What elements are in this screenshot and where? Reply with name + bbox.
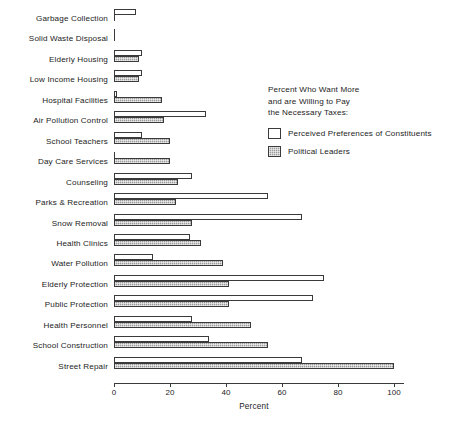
x-axis-tick [170,383,171,387]
bar-political-leaders [114,56,139,62]
bar-political-leaders [114,322,251,328]
bar-chart: Garbage CollectionSolid Waste DisposalEl… [0,0,458,440]
x-axis-tick [114,383,115,387]
category-label: School Construction [33,341,108,351]
bar-political-leaders [114,76,139,82]
bar-political-leaders [114,281,229,287]
category-label: Low Income Housing [30,75,108,85]
legend-entry: Political Leaders [268,144,458,162]
category-label: Street Repair [58,362,108,372]
category-label: Hospital Facilities [42,96,108,106]
bar-political-leaders [114,97,162,103]
category-label: Counseling [66,178,108,188]
bar-group [114,254,404,266]
bar-political-leaders [114,117,164,123]
legend-title-line: the Necessary Taxes: [268,107,458,119]
legend-entry: Perceived Preferences of Constituents [268,126,458,144]
category-label: Health Personnel [44,321,109,331]
legend-label: Political Leaders [288,146,350,157]
x-axis-title: Percent [239,402,269,411]
category-label: Elderly Protection [42,280,108,290]
x-axis-tick-label: 80 [334,388,343,397]
legend-title: Percent Who Want Moreand are Willing to … [268,84,458,119]
x-axis-tick [394,383,395,387]
category-label: Elderly Housing [49,55,108,65]
legend-entries: Perceived Preferences of ConstituentsPol… [268,126,458,162]
bar-group [114,316,404,328]
bar-political-leaders [114,179,178,185]
bar-political-leaders [114,35,115,41]
legend-swatch-white-icon [268,128,281,139]
bar-group [114,9,404,21]
x-axis: Percent 020406080100 [114,383,404,423]
plot-area [114,0,404,440]
category-label: Day Care Services [38,157,108,167]
bar-group [114,295,404,307]
category-label: Garbage Collection [36,14,108,24]
category-label: School Teachers [46,137,108,147]
bar-political-leaders [114,342,268,348]
x-axis-tick-label: 0 [112,388,116,397]
bar-group [114,193,404,205]
x-axis-tick-label: 60 [278,388,287,397]
category-label: Solid Waste Disposal [29,34,108,44]
bar-group [114,70,404,82]
bar-political-leaders [114,240,201,246]
category-label: Air Pollution Control [33,116,108,126]
category-axis-labels: Garbage CollectionSolid Waste DisposalEl… [0,0,108,440]
bar-group [114,214,404,226]
x-axis-tick [226,383,227,387]
x-axis-tick-label: 100 [387,388,400,397]
category-label: Parks & Recreation [36,198,108,208]
x-axis-tick-label: 40 [222,388,231,397]
x-axis-line [114,383,404,384]
chart-legend: Percent Who Want Moreand are Willing to … [268,84,458,162]
bar-political-leaders [114,15,115,21]
legend-title-line: and are Willing to Pay [268,96,458,108]
bar-political-leaders [114,363,394,369]
legend-label: Perceived Preferences of Constituents [288,128,432,139]
bar-political-leaders [114,199,176,205]
x-axis-tick [338,383,339,387]
x-axis-tick-label: 20 [166,388,175,397]
category-label: Health Clinics [56,239,108,249]
bar-perceived-preferences [114,9,136,15]
bar-political-leaders [114,260,223,266]
bar-group [114,234,404,246]
category-label: Water Pollution [51,259,108,269]
bar-political-leaders [114,301,229,307]
bar-group [114,173,404,185]
category-label: Public Protection [45,300,108,310]
bar-group [114,50,404,62]
bar-political-leaders [114,158,170,164]
legend-title-line: Percent Who Want More [268,84,458,96]
category-label: Snow Removal [52,219,108,229]
bar-political-leaders [114,138,170,144]
bar-group [114,275,404,287]
bar-group [114,29,404,41]
legend-swatch-shaded-icon [268,146,281,157]
bar-political-leaders [114,220,192,226]
x-axis-tick [282,383,283,387]
bar-group [114,357,404,369]
bar-group [114,336,404,348]
